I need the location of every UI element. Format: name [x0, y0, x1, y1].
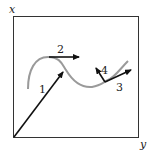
frame [14, 17, 139, 138]
vector-4-label: 4 [101, 64, 108, 77]
vector-1-arrow [14, 72, 63, 137]
y-axis-label: y [139, 138, 147, 151]
vector-2-label: 2 [57, 43, 64, 56]
vector-1-label: 1 [39, 83, 46, 96]
vector-3-label: 3 [116, 81, 123, 94]
x-axis-label: x [9, 3, 16, 16]
diagram-canvas: x y 1 2 3 4 [0, 0, 150, 151]
